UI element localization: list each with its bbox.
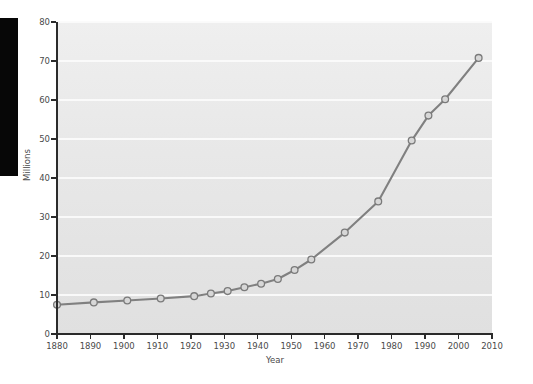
- data-point-marker: [241, 284, 248, 291]
- x-tick-mark: [291, 334, 292, 339]
- y-tick-mark: [51, 21, 56, 22]
- y-tick-label: 20: [6, 252, 50, 261]
- data-point-marker: [475, 54, 482, 61]
- y-tick: 20: [0, 252, 50, 261]
- series-markers: [54, 54, 482, 308]
- x-tick-mark: [157, 334, 158, 339]
- x-tick-mark: [458, 334, 459, 339]
- x-axis-title: Year: [57, 355, 493, 365]
- x-tick-mark: [90, 334, 91, 339]
- y-tick-label: 10: [6, 291, 50, 300]
- y-tick-mark: [51, 333, 56, 334]
- data-point-marker: [208, 290, 215, 297]
- data-point-marker: [157, 295, 164, 302]
- y-tick-mark: [51, 294, 56, 295]
- data-point-marker: [308, 256, 315, 263]
- x-tick-mark: [424, 334, 425, 339]
- data-point-marker: [425, 112, 432, 119]
- y-axis-title: Millions: [22, 130, 32, 200]
- x-tick-mark: [257, 334, 258, 339]
- x-tick-label: 2010: [472, 341, 512, 351]
- x-tick-mark: [56, 334, 57, 339]
- data-point-marker: [341, 229, 348, 236]
- data-point-marker: [274, 276, 281, 283]
- data-point-marker: [90, 299, 97, 306]
- series-line: [57, 58, 479, 305]
- x-tick-mark: [324, 334, 325, 339]
- data-point-marker: [124, 297, 131, 304]
- data-point-marker: [291, 267, 298, 274]
- data-point-marker: [408, 137, 415, 144]
- data-point-marker: [258, 280, 265, 287]
- data-point-marker: [224, 288, 231, 295]
- plot-frame: [57, 22, 492, 334]
- x-tick-mark: [224, 334, 225, 339]
- x-tick-mark: [491, 334, 492, 339]
- x-tick-mark: [190, 334, 191, 339]
- y-tick-mark: [51, 60, 56, 61]
- y-tick-mark: [51, 99, 56, 100]
- x-tick-mark: [391, 334, 392, 339]
- y-axis-line: [56, 22, 58, 334]
- chart-figure: 01020304050607080 1880189019001910192019…: [0, 0, 533, 384]
- y-tick-mark: [51, 216, 56, 217]
- occluding-block: [0, 18, 18, 176]
- y-tick-mark: [51, 255, 56, 256]
- y-tick: 30: [0, 213, 50, 222]
- y-tick: 0: [0, 330, 50, 339]
- y-tick: 10: [0, 291, 50, 300]
- data-point-marker: [375, 198, 382, 205]
- data-point-marker: [442, 96, 449, 103]
- data-series-layer: [57, 22, 492, 334]
- x-tick-mark: [123, 334, 124, 339]
- y-tick-label: 0: [6, 330, 50, 339]
- y-tick-mark: [51, 177, 56, 178]
- x-tick-mark: [357, 334, 358, 339]
- y-tick-mark: [51, 138, 56, 139]
- data-point-marker: [191, 293, 198, 300]
- y-tick-label: 30: [6, 213, 50, 222]
